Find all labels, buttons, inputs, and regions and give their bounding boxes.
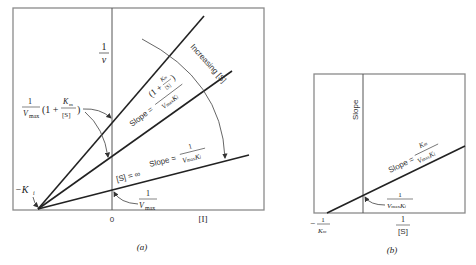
line-mid-s	[38, 71, 232, 209]
y-axis-label-num: 1	[102, 41, 107, 52]
svg-text:i: i	[33, 190, 35, 196]
panel-b-x-intercept-label: − 1 Km	[310, 216, 330, 235]
svg-text:Slope =: Slope =	[148, 154, 177, 169]
svg-text:m: m	[69, 102, 73, 107]
svg-text:(1 +: (1 +	[146, 82, 164, 99]
svg-text:VmaxKi: VmaxKi	[182, 152, 203, 164]
panel-b-x-label: 1 [S]	[396, 215, 410, 236]
svg-text:1: 1	[146, 189, 150, 198]
svg-text:Km: Km	[417, 139, 429, 150]
panel-b: Slope Slope = Km VmaxKi 1 VmaxKi − 1 Km …	[310, 74, 465, 255]
x-axis-zero: 0	[110, 215, 115, 224]
svg-text:K: K	[62, 97, 69, 106]
svg-text:−: −	[310, 218, 315, 228]
panel-b-line	[327, 146, 465, 213]
svg-text:): )	[169, 73, 177, 83]
svg-text:1: 1	[321, 216, 325, 224]
svg-text:VmaxKi: VmaxKi	[160, 93, 180, 111]
lower-intercept-arrow	[114, 192, 138, 204]
svg-text:[S]: [S]	[62, 111, 71, 119]
svg-text:1: 1	[401, 215, 405, 224]
upper-intercept-label: 1 V max (1 + K m [S] )	[22, 97, 80, 119]
x-intercept-label: −K	[15, 184, 30, 195]
svg-text:[S]: [S]	[164, 83, 172, 91]
svg-text:1: 1	[398, 191, 402, 199]
svg-text:Slope =: Slope =	[128, 105, 156, 129]
lower-intercept-label: 1 V max	[139, 189, 157, 211]
x-axis-label: [I]	[199, 214, 208, 224]
panel-b-caption: (b)	[387, 245, 398, 255]
panel-b-y-label: Slope	[351, 99, 360, 120]
svg-text:): )	[77, 104, 80, 116]
slope-upper-label: Slope = (1 + Km [S] ) VmaxKi	[118, 69, 189, 133]
panel-a: 1 v 1 V max (1 + K m [S] ) 1 V max −K i	[13, 8, 264, 252]
svg-text:VmaxKi: VmaxKi	[416, 149, 437, 165]
figure: 1 v 1 V max (1 + K m [S] ) 1 V max −K i	[0, 0, 476, 265]
svg-text:max: max	[145, 205, 155, 211]
svg-text:VmaxKi: VmaxKi	[387, 202, 407, 210]
ki-arrow	[33, 197, 38, 207]
increasing-s-arc-arrow	[142, 39, 225, 158]
svg-text:[S]: [S]	[398, 227, 408, 236]
svg-text:(1 +: (1 +	[42, 104, 59, 116]
svg-text:1: 1	[28, 97, 32, 106]
panel-b-intercept-arrow	[365, 197, 385, 205]
panel-b-y-intercept-label: 1 VmaxKi	[387, 191, 413, 210]
panel-b-frame	[314, 74, 465, 213]
panel-a-caption: (a)	[137, 242, 148, 252]
svg-text:Km: Km	[317, 227, 327, 235]
svg-text:max: max	[29, 113, 39, 119]
y-axis-label-den: v	[102, 54, 107, 65]
s-infinity-label: [S] = ∞	[115, 169, 141, 184]
svg-text:1: 1	[188, 142, 194, 151]
